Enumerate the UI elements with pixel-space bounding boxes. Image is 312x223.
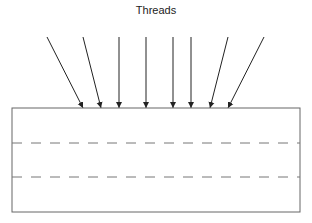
dashed-divider-lines — [12, 143, 300, 177]
shared-memory-box — [12, 108, 300, 212]
thread-arrow-1 — [47, 37, 83, 108]
threads-diagram — [0, 0, 312, 223]
thread-arrow-7 — [210, 37, 228, 108]
thread-arrows — [47, 37, 264, 108]
thread-arrow-8 — [228, 37, 264, 108]
thread-arrow-2 — [83, 37, 101, 108]
